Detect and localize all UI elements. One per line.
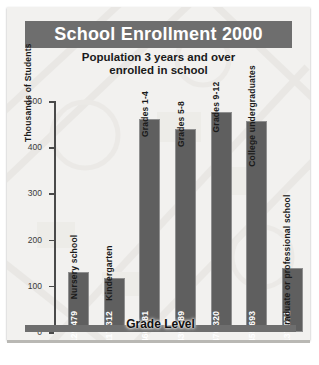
bar-category-label: College undergraduates <box>247 66 257 168</box>
bar-group: 137,971Graduate or professional school <box>282 98 303 332</box>
bar-category-label: Graduate or professional school <box>282 195 292 332</box>
plot-area: 0100200300400500 129,479Nursery school11… <box>54 95 304 335</box>
x-axis-title: Grade Level <box>25 317 296 331</box>
school-enrollment-chart-figure: School Enrollment 2000 Population 3 year… <box>0 0 319 365</box>
bar-group: 117,312Kindergarten <box>104 98 125 332</box>
y-axis-tick-label: 400 <box>28 142 42 152</box>
bar-series: 129,479Nursery school117,312Kindergarten… <box>54 95 304 335</box>
bar-category-label: Nursery school <box>69 235 79 300</box>
page-title: School Enrollment 2000 <box>54 24 262 45</box>
bar[interactable]: 476,320 <box>211 112 232 332</box>
bar-group: 460,681Grades 1-4 <box>139 98 160 332</box>
chart-title-band: School Enrollment 2000 <box>25 21 292 48</box>
bar[interactable]: 460,681 <box>139 119 160 332</box>
bar-group: 439,789Grades 5-8 <box>175 98 196 332</box>
bar-category-label: Grades 9-12 <box>211 82 221 133</box>
y-axis-tick-label: 300 <box>28 188 42 198</box>
bar-category-label: Kindergarten <box>104 245 114 300</box>
bar-group: 129,479Nursery school <box>68 98 89 332</box>
y-axis-tick-label: 100 <box>28 281 42 291</box>
bar-category-label: Grades 5-8 <box>176 101 186 147</box>
chart-subtitle-line-1: Population 3 years and over <box>25 51 292 64</box>
chart-paper: School Enrollment 2000 Population 3 year… <box>7 7 310 340</box>
paper-bottom-edge <box>7 340 310 343</box>
y-axis-title: Thousands of Students <box>23 43 33 142</box>
y-axis-tick-label: 200 <box>28 235 42 245</box>
bar-group: 476,320Grades 9-12 <box>211 98 232 332</box>
bar[interactable]: 439,789 <box>175 129 196 332</box>
bar-group: 455,693College undergraduates <box>246 98 267 332</box>
bar-category-label: Grades 1-4 <box>140 91 150 137</box>
